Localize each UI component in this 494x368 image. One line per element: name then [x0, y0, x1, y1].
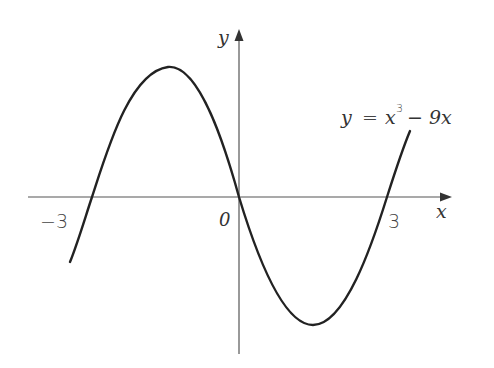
svg-text:x: x — [385, 106, 396, 128]
svg-text:− 9x: − 9x — [407, 106, 452, 128]
svg-text:=: = — [362, 106, 378, 128]
cubic-graph: y x −3 0 3 y = x 3 − 9x — [0, 0, 494, 368]
origin-label: 0 — [219, 209, 230, 230]
y-axis-label: y — [217, 26, 229, 48]
svg-text:y: y — [340, 106, 352, 128]
y-axis-arrow-icon — [235, 29, 244, 41]
tick-label-neg-3: −3 — [40, 210, 68, 232]
svg-text:3: 3 — [396, 102, 403, 115]
cubic-curve — [70, 67, 410, 325]
tick-label-3: 3 — [388, 210, 400, 232]
equation-label: y = x 3 − 9x — [340, 102, 452, 128]
x-axis-label: x — [436, 200, 447, 222]
